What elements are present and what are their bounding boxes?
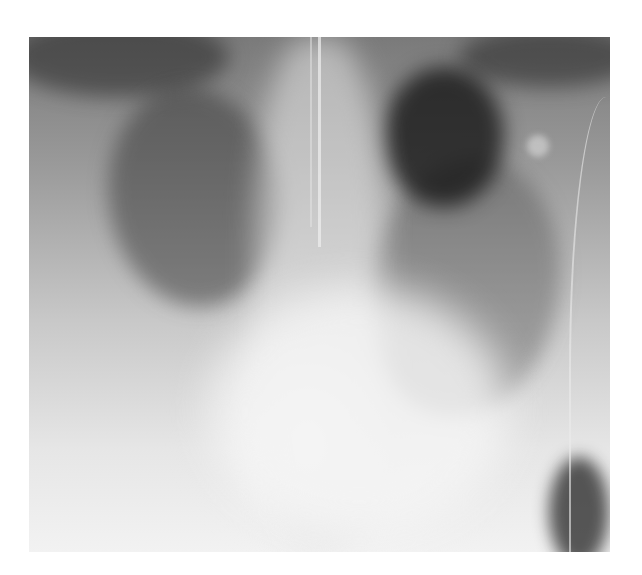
chest-xray-image (29, 37, 610, 552)
upper-right-dark-region (459, 37, 610, 87)
nasogastric-tube (310, 37, 312, 227)
endotracheal-tube (318, 37, 321, 247)
ecg-lead-marker (527, 135, 549, 157)
left-upper-lucency (384, 67, 504, 207)
cardiac-silhouette (209, 287, 509, 537)
lateral-line (569, 97, 610, 552)
